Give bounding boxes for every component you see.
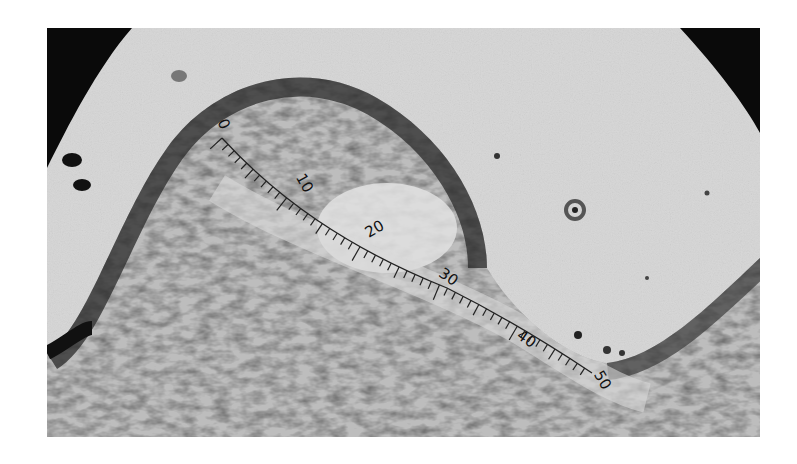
- micrograph-image: [47, 28, 760, 437]
- micrograph-frame: 0 10 20 30 40 50: [47, 28, 760, 437]
